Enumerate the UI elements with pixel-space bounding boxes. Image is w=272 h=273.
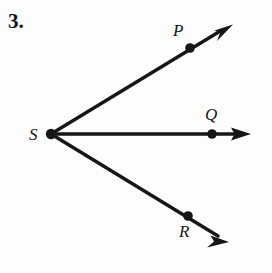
figure-canvas: 3. S P Q R xyxy=(0,0,272,273)
point-p-dot xyxy=(185,43,195,53)
point-r-dot xyxy=(183,211,193,221)
ray-sq xyxy=(51,128,251,141)
ray-sr-line xyxy=(51,134,218,236)
ray-sp-line xyxy=(51,30,222,134)
point-q-dot xyxy=(207,129,217,139)
geometry-diagram xyxy=(0,0,272,273)
point-label-p: P xyxy=(173,22,183,39)
point-label-s: S xyxy=(29,126,38,143)
point-label-r: R xyxy=(179,223,189,240)
point-label-q: Q xyxy=(205,106,217,123)
ray-sr xyxy=(51,134,229,248)
point-s-dot xyxy=(46,129,56,139)
